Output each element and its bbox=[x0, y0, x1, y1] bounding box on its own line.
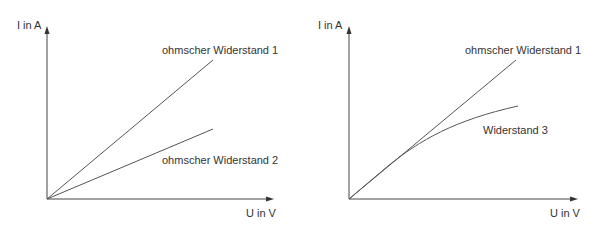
right-curve-resistor-3 bbox=[349, 106, 518, 199]
right-x-axis-arrow-icon bbox=[570, 197, 578, 202]
left-diagram: I in A U in V ohmscher Widerstand 1 ohms… bbox=[17, 19, 278, 219]
right-curve-1-label: ohmscher Widerstand 1 bbox=[465, 44, 581, 56]
right-y-axis-arrow-icon bbox=[347, 26, 352, 34]
right-curve-3-label: Widerstand 3 bbox=[483, 124, 548, 136]
left-y-axis-label: I in A bbox=[17, 19, 42, 31]
right-y-axis-label: I in A bbox=[318, 19, 343, 31]
left-curve-resistor-1 bbox=[47, 60, 213, 199]
left-curve-1-label: ohmscher Widerstand 1 bbox=[162, 44, 278, 56]
right-x-axis-label: U in V bbox=[550, 207, 581, 219]
left-curve-2-label: ohmscher Widerstand 2 bbox=[162, 154, 278, 166]
left-x-axis-label: U in V bbox=[246, 207, 277, 219]
left-x-axis-arrow-icon bbox=[266, 197, 274, 202]
right-diagram: I in A U in V ohmscher Widerstand 1 Wide… bbox=[318, 19, 581, 219]
left-y-axis-arrow-icon bbox=[45, 26, 50, 34]
iu-characteristic-diagrams: I in A U in V ohmscher Widerstand 1 ohms… bbox=[0, 0, 594, 225]
